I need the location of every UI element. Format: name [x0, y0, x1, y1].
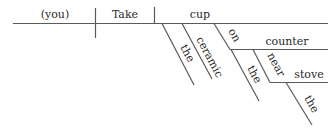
verb-word: Take [112, 8, 138, 21]
sentence-diagram: (you) Take cup the ceramic on counter th… [0, 0, 335, 131]
subject-word: (you) [41, 8, 70, 21]
preposition-on: on [225, 26, 243, 44]
preposition-line-on [214, 24, 230, 50]
direct-object-word: cup [190, 8, 210, 21]
preposition-near: near [264, 50, 288, 79]
object-counter: counter [265, 35, 309, 48]
object-stove: stove [294, 68, 323, 81]
modifier-ceramic: ceramic [193, 34, 225, 79]
